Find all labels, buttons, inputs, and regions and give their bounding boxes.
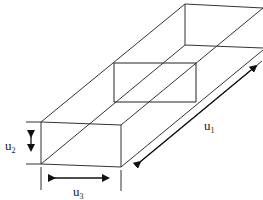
label-u1: u1	[204, 119, 215, 135]
mid-section	[114, 63, 196, 102]
edge-top-right	[121, 8, 263, 125]
duct-diagram	[0, 0, 263, 200]
far-face	[185, 4, 263, 48]
edge-bottom-right	[121, 50, 263, 167]
label-u2-sub: 2	[12, 146, 16, 155]
label-u1-sub: 1	[211, 126, 215, 135]
u1-arrow	[140, 66, 256, 162]
near-face	[41, 122, 121, 167]
label-u2: u2	[5, 139, 16, 155]
label-u3: u3	[73, 185, 84, 200]
label-u3-sub: 3	[80, 192, 84, 200]
